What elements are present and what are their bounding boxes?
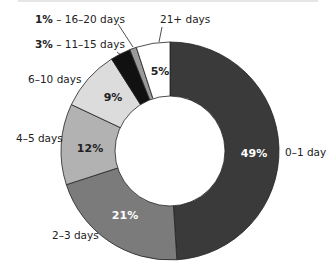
pct-12: 12% bbox=[77, 142, 103, 155]
label-11-15-text: – 11–15 days bbox=[53, 38, 125, 50]
pct-1: 1% bbox=[35, 13, 53, 25]
pct-5: 5% bbox=[151, 65, 170, 78]
label-16-20-text: – 16–20 days bbox=[53, 13, 125, 25]
pct-21: 21% bbox=[112, 209, 138, 222]
pct-9: 9% bbox=[104, 91, 123, 104]
pct-3: 3% bbox=[35, 38, 53, 50]
label-16-20-days: 1% – 16–20 days bbox=[35, 13, 125, 25]
label-21-plus-days: 21+ days bbox=[160, 13, 210, 25]
label-2-3-days: 2–3 days bbox=[52, 229, 99, 241]
label-6-10-days: 6–10 days bbox=[28, 73, 81, 85]
label-4-5-days: 4–5 days bbox=[16, 132, 63, 144]
pct-49: 49% bbox=[241, 147, 267, 160]
label-0-1-day: 0–1 day bbox=[285, 146, 326, 158]
label-11-15-days: 3% – 11–15 days bbox=[35, 38, 125, 50]
